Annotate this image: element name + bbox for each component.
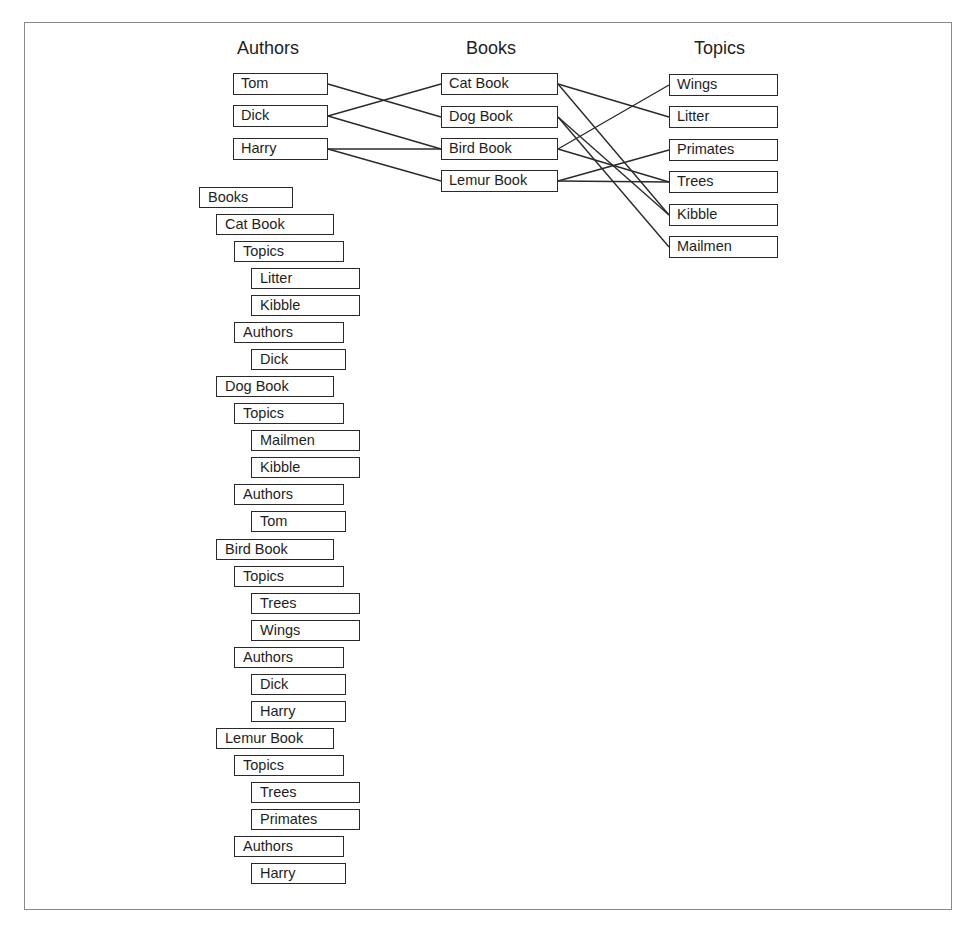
graph-node-primates: Primates [669, 139, 778, 161]
tree-node-level-3: Kibble [251, 295, 360, 316]
tree-node-level-0: Books [199, 187, 293, 208]
graph-node-dog: Dog Book [441, 106, 558, 128]
tree-node-level-2: Authors [234, 322, 344, 343]
graph-node-cat: Cat Book [441, 73, 558, 95]
edge-cat-litter [558, 84, 669, 117]
tree-node-level-3: Dick [251, 349, 346, 370]
graph-node-wings: Wings [669, 74, 778, 96]
tree-node-level-2: Topics [234, 566, 344, 587]
tree-node-level-3: Wings [251, 620, 360, 641]
tree-node-level-3: Harry [251, 863, 346, 884]
tree-node-level-3: Primates [251, 809, 360, 830]
tree-node-level-1: Bird Book [216, 539, 334, 560]
column-header-books: Books [466, 36, 516, 60]
tree-node-level-2: Authors [234, 484, 344, 505]
column-header-authors: Authors [237, 36, 299, 60]
graph-node-mailmen: Mailmen [669, 236, 778, 258]
tree-node-level-2: Authors [234, 836, 344, 857]
graph-node-tom: Tom [233, 73, 328, 95]
graph-node-harry: Harry [233, 138, 328, 160]
tree-node-level-3: Harry [251, 701, 346, 722]
edge-lemur-trees [558, 181, 669, 182]
tree-node-level-3: Dick [251, 674, 346, 695]
tree-node-level-3: Kibble [251, 457, 360, 478]
tree-node-level-3: Trees [251, 782, 360, 803]
graph-node-litter: Litter [669, 106, 778, 128]
tree-node-level-1: Lemur Book [216, 728, 334, 749]
graph-node-kibble: Kibble [669, 204, 778, 226]
tree-node-level-2: Authors [234, 647, 344, 668]
tree-node-level-1: Dog Book [216, 376, 334, 397]
edge-harry-lemur [328, 149, 441, 181]
tree-node-level-3: Litter [251, 268, 360, 289]
edge-bird-wings [558, 85, 669, 149]
edge-cat-kibble [558, 84, 669, 215]
graph-node-dick: Dick [233, 105, 328, 127]
tree-node-level-2: Topics [234, 403, 344, 424]
tree-node-level-1: Cat Book [216, 214, 334, 235]
tree-node-level-3: Tom [251, 511, 346, 532]
graph-node-bird: Bird Book [441, 138, 558, 160]
tree-node-level-2: Topics [234, 755, 344, 776]
edge-dick-bird [328, 116, 441, 149]
graph-node-trees: Trees [669, 171, 778, 193]
tree-node-level-3: Mailmen [251, 430, 360, 451]
tree-node-level-3: Trees [251, 593, 360, 614]
graph-node-lemur: Lemur Book [441, 170, 558, 192]
column-header-topics: Topics [694, 36, 745, 60]
tree-node-level-2: Topics [234, 241, 344, 262]
